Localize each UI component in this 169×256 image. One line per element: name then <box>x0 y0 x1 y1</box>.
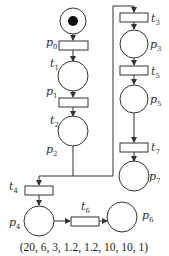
label-p3: p3 <box>150 38 162 53</box>
label-t1: t1 <box>50 57 59 72</box>
label-t7: t7 <box>151 141 160 156</box>
token-p0 <box>68 16 78 26</box>
label-p4: p4 <box>9 216 21 231</box>
place-p2 <box>58 116 88 146</box>
transition-t3 <box>120 13 148 22</box>
label-t5: t5 <box>151 65 160 80</box>
arc-p2-t3 <box>113 6 134 176</box>
transition-t7 <box>120 143 148 152</box>
place-p1 <box>58 61 88 91</box>
transition-t6 <box>71 217 99 226</box>
transition-t4 <box>25 186 53 195</box>
transition-t1 <box>59 41 88 50</box>
transition-t5 <box>120 66 148 75</box>
transition-t2 <box>59 98 88 107</box>
petri-net-diagram: p0 t1 p1 t2 p2 t3 p3 t5 p5 t7 p7 t4 p4 t… <box>0 0 169 256</box>
place-p3 <box>120 30 148 58</box>
label-t6: t6 <box>81 200 90 215</box>
place-p4 <box>24 206 54 236</box>
place-p6 <box>107 202 137 232</box>
label-p7: p7 <box>149 170 161 185</box>
label-t2: t2 <box>50 114 59 129</box>
label-p6: p6 <box>142 209 154 224</box>
place-p7 <box>119 161 149 191</box>
label-t3: t3 <box>151 12 160 27</box>
label-p0: p0 <box>46 36 58 51</box>
caption: (20, 6, 3, 1.2, 1.2, 10, 10, 1) <box>20 241 149 254</box>
arc-p2-t4 <box>39 176 113 185</box>
label-t4: t4 <box>9 180 18 195</box>
label-p1: p1 <box>46 85 58 100</box>
place-p5 <box>120 85 148 113</box>
label-p5: p5 <box>150 93 162 108</box>
label-p2: p2 <box>46 143 58 158</box>
